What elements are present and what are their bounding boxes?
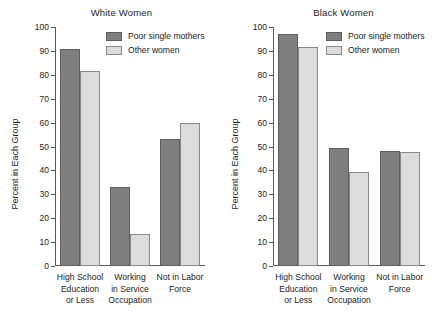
bar-poor-single-mothers	[278, 34, 298, 266]
y-tick	[269, 99, 273, 100]
y-tick	[51, 75, 55, 76]
x-axis-label-line: High School	[55, 272, 105, 284]
legend-item-other-women: Other women	[106, 44, 204, 56]
x-axis-label-line: Not in Labor	[374, 272, 425, 284]
y-tick-label: 50	[40, 142, 49, 152]
y-tick-label: 10	[258, 237, 267, 247]
bar-poor-single-mothers	[380, 151, 400, 266]
y-axis-label: Percent in Each Group	[230, 118, 240, 209]
x-axis-group-label: Not in LaborForce	[374, 272, 425, 295]
x-axis-label-line: High School	[273, 272, 324, 284]
y-tick	[269, 242, 273, 243]
y-tick	[51, 242, 55, 243]
y-tick	[269, 170, 273, 171]
y-tick	[269, 194, 273, 195]
y-tick-label: 30	[40, 189, 49, 199]
bar-poor-single-mothers	[160, 139, 180, 266]
bar-other-women	[180, 123, 200, 266]
x-axis-label-line: or Less	[55, 295, 105, 307]
legend-left: Poor single mothers Other women	[106, 30, 204, 58]
y-tick-label: 20	[258, 213, 267, 223]
figure: White Women Percent in Each Group 010203…	[0, 0, 443, 328]
y-tick-label: 0	[44, 261, 49, 271]
y-tick-label: 80	[258, 70, 267, 80]
legend-swatch-icon-light	[326, 46, 342, 55]
bar-poor-single-mothers	[110, 187, 130, 266]
legend-label: Other women	[348, 45, 400, 55]
x-axis-label-line: in Service	[105, 284, 155, 296]
legend-item-other-women: Other women	[326, 44, 424, 56]
y-tick-label: 70	[258, 94, 267, 104]
y-tick-label: 90	[40, 46, 49, 56]
y-tick-label: 0	[262, 261, 267, 271]
x-axis-group-label: Not in LaborForce	[155, 272, 205, 295]
y-tick-label: 40	[40, 165, 49, 175]
bar-other-women	[130, 234, 150, 266]
bar-other-women	[298, 47, 318, 266]
panel-title: Black Women	[222, 7, 443, 18]
y-tick-label: 60	[40, 118, 49, 128]
x-axis-group-label: High SchoolEducationor Less	[273, 272, 324, 307]
y-tick	[269, 218, 273, 219]
chart-panel-black-women: Black Women Percent in Each Group 010203…	[222, 0, 443, 328]
y-tick	[269, 266, 273, 267]
y-tick	[51, 194, 55, 195]
y-tick	[51, 266, 55, 267]
y-tick	[269, 75, 273, 76]
bar-poor-single-mothers	[329, 148, 349, 266]
y-tick	[269, 51, 273, 52]
legend-label: Poor single mothers	[128, 31, 204, 41]
y-tick	[269, 147, 273, 148]
y-tick	[269, 123, 273, 124]
legend-right: Poor single mothers Other women	[326, 30, 424, 58]
legend-swatch-icon-dark	[106, 32, 122, 41]
y-tick	[51, 99, 55, 100]
y-tick-label: 70	[40, 94, 49, 104]
x-axis-label-line: Working	[324, 272, 375, 284]
y-tick	[51, 218, 55, 219]
y-tick-label: 100	[253, 22, 267, 32]
legend-item-poor-single-mothers: Poor single mothers	[106, 30, 204, 42]
y-tick	[51, 123, 55, 124]
x-axis-label-line: Occupation	[324, 295, 375, 307]
x-axis-label-line: Education	[273, 284, 324, 296]
plot-area-left: 0102030405060708090100	[55, 27, 205, 266]
x-axis-label-line: Force	[155, 284, 205, 296]
y-tick-label: 90	[258, 46, 267, 56]
bar-other-women	[80, 71, 100, 266]
y-tick-label: 10	[40, 237, 49, 247]
legend-label: Other women	[128, 45, 180, 55]
y-tick-label: 60	[258, 118, 267, 128]
x-axis-label-line: Not in Labor	[155, 272, 205, 284]
x-axis-group-label: Workingin ServiceOccupation	[324, 272, 375, 307]
y-tick	[51, 170, 55, 171]
chart-panel-white-women: White Women Percent in Each Group 010203…	[0, 0, 221, 328]
legend-swatch-icon-light	[106, 46, 122, 55]
y-tick	[51, 51, 55, 52]
y-axis-line	[273, 27, 274, 266]
x-axis-label-line: in Service	[324, 284, 375, 296]
x-axis-label-line: or Less	[273, 295, 324, 307]
bar-other-women	[349, 172, 369, 266]
y-tick	[269, 27, 273, 28]
legend-swatch-icon-dark	[326, 32, 342, 41]
bar-other-women	[400, 152, 420, 266]
y-tick-label: 100	[35, 22, 49, 32]
x-axis-group-label: Workingin ServiceOccupation	[105, 272, 155, 307]
y-axis-line	[55, 27, 56, 266]
x-axis-label-line: Force	[374, 284, 425, 296]
y-tick	[51, 27, 55, 28]
plot-area-right: 0102030405060708090100	[273, 27, 425, 266]
bar-poor-single-mothers	[60, 49, 80, 266]
legend-item-poor-single-mothers: Poor single mothers	[326, 30, 424, 42]
legend-label: Poor single mothers	[348, 31, 424, 41]
y-tick	[51, 147, 55, 148]
y-tick-label: 40	[258, 165, 267, 175]
x-axis-group-label: High SchoolEducationor Less	[55, 272, 105, 307]
y-axis-label: Percent in Each Group	[10, 118, 20, 209]
y-tick-label: 30	[258, 189, 267, 199]
panel-title: White Women	[0, 7, 221, 18]
x-axis-label-line: Education	[55, 284, 105, 296]
y-tick-label: 80	[40, 70, 49, 80]
x-axis-label-line: Working	[105, 272, 155, 284]
